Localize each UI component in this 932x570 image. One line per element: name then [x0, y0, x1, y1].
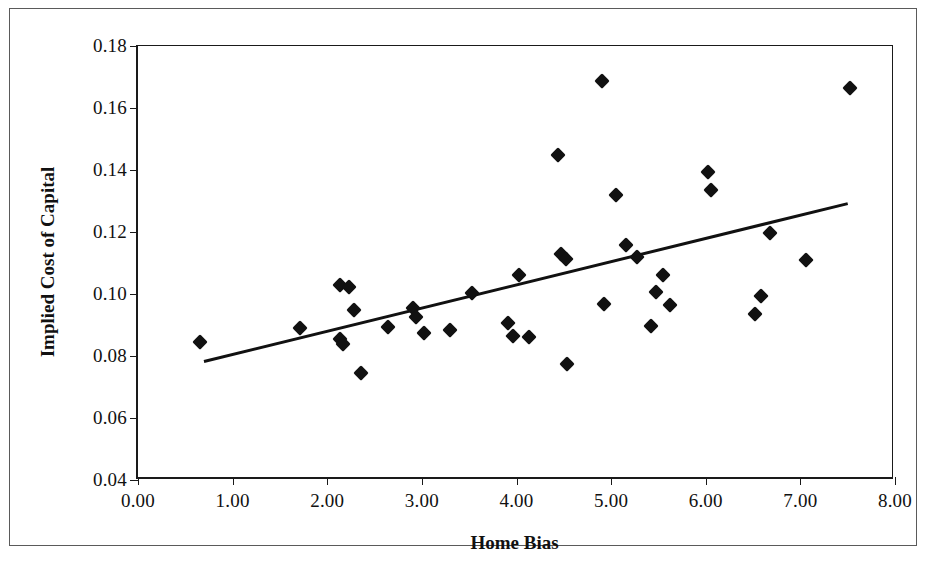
x-tick-mark: [422, 477, 423, 485]
x-tick-label: 8.00: [878, 490, 912, 512]
y-tick-label: 0.12: [93, 221, 127, 243]
scatter-point: [596, 296, 612, 312]
scatter-point: [648, 284, 664, 300]
y-tick-label: 0.06: [93, 407, 127, 429]
scatter-point: [380, 319, 396, 335]
x-tick-mark: [138, 477, 139, 485]
scatter-point: [704, 182, 720, 198]
x-tick-label: 0.00: [121, 490, 155, 512]
scatter-point: [442, 322, 458, 338]
y-tick-mark: [130, 356, 138, 357]
y-tick-label: 0.14: [93, 159, 127, 181]
scatter-point: [700, 165, 716, 181]
scatter-point: [193, 334, 209, 350]
scatter-point: [292, 320, 308, 336]
y-tick-label: 0.10: [93, 283, 127, 305]
y-tick-label: 0.18: [93, 35, 127, 57]
y-tick-mark: [130, 294, 138, 295]
scatter-point: [521, 330, 537, 346]
y-tick-mark: [130, 108, 138, 109]
x-tick-mark: [706, 477, 707, 485]
x-tick-mark: [611, 477, 612, 485]
scatter-point: [629, 250, 645, 266]
x-tick-mark: [800, 477, 801, 485]
x-tick-label: 4.00: [499, 490, 533, 512]
scatter-point: [354, 365, 370, 381]
y-tick-mark: [130, 232, 138, 233]
x-axis-title: Home Bias: [136, 532, 893, 554]
y-axis-title-text: Implied Cost of Capital: [37, 167, 59, 358]
y-tick-label: 0.08: [93, 345, 127, 367]
y-tick-mark: [130, 418, 138, 419]
scatter-point: [643, 318, 659, 334]
x-tick-label: 6.00: [689, 490, 723, 512]
scatter-point: [842, 81, 858, 97]
scatter-point: [753, 289, 769, 305]
plot-area: 0.040.060.080.100.120.140.160.18 0.001.0…: [136, 45, 893, 479]
scatter-point: [416, 325, 432, 341]
scatter-point: [608, 188, 624, 204]
scatter-point: [747, 306, 763, 322]
y-tick-mark: [130, 46, 138, 47]
y-tick-mark: [130, 170, 138, 171]
scatter-point: [559, 356, 575, 372]
x-tick-mark: [327, 477, 328, 485]
scatter-markers: [138, 46, 892, 477]
y-tick-label: 0.04: [93, 469, 127, 491]
scatter-point: [762, 225, 778, 241]
figure-page: Implied Cost of Capital 0.040.060.080.10…: [0, 0, 932, 570]
y-axis-title: Implied Cost of Capital: [36, 45, 60, 479]
scatter-point: [662, 298, 678, 314]
scatter-point: [346, 302, 362, 318]
y-tick-mark: [130, 480, 138, 481]
x-tick-label: 7.00: [783, 490, 817, 512]
x-tick-label: 3.00: [405, 490, 439, 512]
x-tick-mark: [233, 477, 234, 485]
scatter-point: [464, 285, 480, 301]
scatter-point: [798, 252, 814, 268]
figure-frame: Implied Cost of Capital 0.040.060.080.10…: [9, 8, 917, 546]
y-tick-label: 0.16: [93, 97, 127, 119]
x-axis-title-text: Home Bias: [470, 532, 558, 553]
x-tick-label: 2.00: [310, 490, 344, 512]
x-tick-label: 1.00: [216, 490, 250, 512]
x-tick-label: 5.00: [594, 490, 628, 512]
scatter-point: [655, 267, 671, 283]
scatter-point: [618, 237, 634, 253]
scatter-point: [594, 73, 610, 89]
x-tick-mark: [517, 477, 518, 485]
scatter-point: [512, 267, 528, 283]
scatter-point: [550, 147, 566, 163]
x-tick-mark: [895, 477, 896, 485]
